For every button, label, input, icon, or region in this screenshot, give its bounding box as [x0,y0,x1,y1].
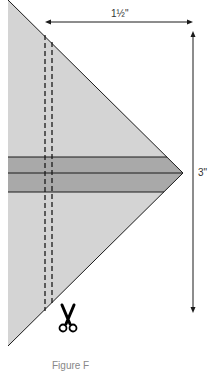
width-dimension-arrow [45,20,193,25]
height-dimension-arrow [191,31,196,313]
width-label: 1½" [111,9,128,19]
strip-band-upper [8,157,183,173]
scissors-icon [60,305,77,332]
height-label: 3" [198,168,207,178]
strip-band-lower [8,173,183,192]
figure-caption: Figure F [52,360,89,371]
